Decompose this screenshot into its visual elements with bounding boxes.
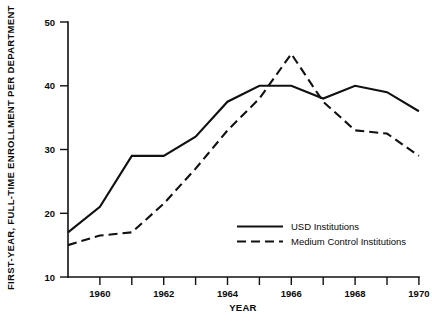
x-tick-label-1970: 1970 bbox=[408, 288, 429, 299]
x-tick-label-1966: 1966 bbox=[281, 288, 302, 299]
x-axis-ticks bbox=[100, 277, 419, 285]
chart-container: FIRST-YEAR, FULL-TIME ENROLLMENT PER DEP… bbox=[0, 0, 432, 324]
y-tick-label-20: 20 bbox=[44, 208, 55, 219]
chart-legend: USD Institutions Medium Control Institut… bbox=[237, 221, 406, 247]
y-axis-title: FIRST-YEAR, FULL-TIME ENROLLMENT PER DEP… bbox=[5, 5, 16, 290]
x-tick-label-1964: 1964 bbox=[217, 288, 239, 299]
y-axis-ticks: 50 40 30 20 10 bbox=[44, 17, 68, 283]
x-axis-tick-labels: 1960 1962 1964 1966 1968 1970 bbox=[89, 288, 429, 299]
legend-label-usd: USD Institutions bbox=[291, 221, 359, 232]
series-line-medium-control-institutions bbox=[68, 54, 419, 245]
legend-label-medium-control: Medium Control Institutions bbox=[291, 236, 406, 247]
y-tick-label-30: 30 bbox=[44, 144, 55, 155]
x-tick-label-1962: 1962 bbox=[153, 288, 174, 299]
y-tick-label-10: 10 bbox=[44, 272, 55, 283]
y-tick-label-50: 50 bbox=[44, 17, 55, 28]
x-axis-title: YEAR bbox=[229, 302, 257, 313]
y-tick-label-40: 40 bbox=[44, 80, 55, 91]
x-tick-label-1960: 1960 bbox=[89, 288, 110, 299]
series-line-usd-institutions bbox=[68, 86, 419, 233]
x-tick-label-1968: 1968 bbox=[345, 288, 366, 299]
line-chart: FIRST-YEAR, FULL-TIME ENROLLMENT PER DEP… bbox=[0, 0, 432, 324]
